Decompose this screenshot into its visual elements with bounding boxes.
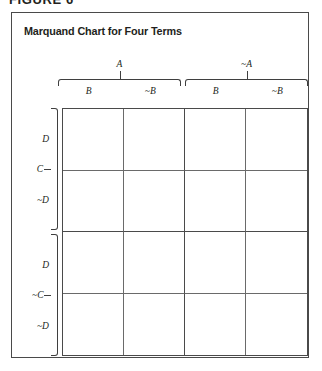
row-sublabel-c-nd: ~D xyxy=(32,169,51,230)
column-sublabels-a: B ~B xyxy=(58,85,181,98)
matrix-cell[interactable] xyxy=(246,294,307,356)
column-group-tick-a xyxy=(120,71,121,79)
column-group-a: A B ~B xyxy=(58,59,181,103)
row-sublabels-c: D ~D xyxy=(32,108,51,230)
column-sublabel-a-nb: ~B xyxy=(120,85,182,98)
row-sublabel-not-c-nd: ~D xyxy=(32,295,51,356)
column-group-label-not-a: ~A xyxy=(185,59,308,70)
matrix-cell[interactable] xyxy=(185,294,246,356)
matrix-cell[interactable] xyxy=(246,171,307,233)
matrix-cell[interactable] xyxy=(185,171,246,233)
column-group-label-a: A xyxy=(58,59,181,70)
matrix-cell[interactable] xyxy=(246,109,307,171)
column-group-tick-not-a xyxy=(247,71,248,79)
matrix-cell[interactable] xyxy=(124,109,185,171)
matrix-cell[interactable] xyxy=(185,109,246,171)
matrix-cell[interactable] xyxy=(124,294,185,356)
column-sublabel-a-b: B xyxy=(58,85,120,98)
row-brace-not-c xyxy=(51,234,58,356)
matrix-cell[interactable] xyxy=(63,171,124,233)
column-sublabel-not-a-nb: ~B xyxy=(247,85,309,98)
matrix-cell[interactable] xyxy=(124,171,185,233)
figure-frame: Marquand Chart for Four Terms A B ~B ~A … xyxy=(11,12,309,358)
column-group-not-a: ~A B ~B xyxy=(185,59,308,103)
matrix-cell[interactable] xyxy=(63,109,124,171)
page-title: Marquand Chart for Four Terms xyxy=(24,25,182,37)
matrix-cell[interactable] xyxy=(63,232,124,294)
matrix-cell[interactable] xyxy=(63,294,124,356)
row-headers: C D ~D ~C D ~D xyxy=(32,108,58,356)
row-sublabel-not-c-d: D xyxy=(32,234,51,295)
matrix-cell[interactable] xyxy=(246,232,307,294)
column-sublabel-not-a-b: B xyxy=(185,85,247,98)
column-sublabels-not-a: B ~B xyxy=(185,85,308,98)
matrix-cell[interactable] xyxy=(185,232,246,294)
marquand-matrix xyxy=(62,108,308,356)
row-brace-c xyxy=(51,108,58,230)
figure-caption: FIGURE 6 xyxy=(9,0,74,7)
column-headers: A B ~B ~A B ~B xyxy=(58,59,308,103)
row-group-c: C D ~D xyxy=(32,108,58,230)
row-sublabel-c-d: D xyxy=(32,108,51,169)
matrix-cell[interactable] xyxy=(124,232,185,294)
row-sublabels-not-c: D ~D xyxy=(32,234,51,356)
row-group-not-c: ~C D ~D xyxy=(32,234,58,356)
